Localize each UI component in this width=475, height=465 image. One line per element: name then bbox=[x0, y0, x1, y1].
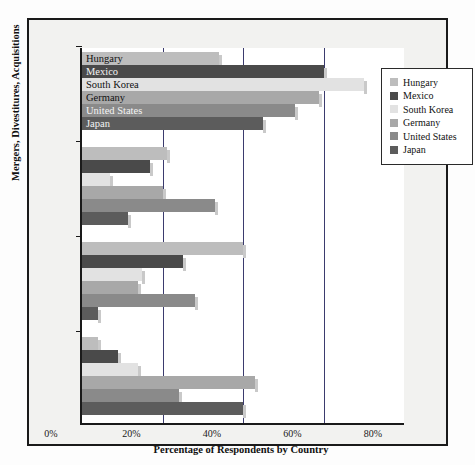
legend-item-mexico[interactable]: Mexico bbox=[390, 90, 466, 102]
bar-shadow bbox=[364, 81, 367, 94]
bar-united-states-g4[interactable] bbox=[82, 389, 179, 402]
legend-label: United States bbox=[403, 131, 457, 142]
bar-south-korea-g2[interactable] bbox=[82, 173, 110, 186]
bar-shadow bbox=[295, 107, 298, 120]
bar-shadow bbox=[167, 150, 170, 163]
legend-item-hungary[interactable]: Hungary bbox=[390, 76, 466, 88]
bar-label-japan: Japan bbox=[86, 117, 110, 130]
legend-label: Hungary bbox=[403, 77, 438, 88]
bar-shadow bbox=[150, 163, 153, 176]
legend-label: South Korea bbox=[403, 104, 453, 115]
legend-label: Germany bbox=[403, 117, 440, 128]
legend-swatch-icon bbox=[390, 146, 398, 154]
bar-shadow bbox=[243, 405, 246, 418]
bar-japan-g2[interactable] bbox=[82, 212, 128, 225]
bar-mexico-g2[interactable] bbox=[82, 160, 150, 173]
legend-swatch-icon bbox=[390, 78, 398, 86]
bar-japan-g4[interactable] bbox=[82, 402, 243, 415]
legend-swatch-icon bbox=[390, 105, 398, 113]
y-tick-1 bbox=[76, 46, 82, 47]
y-tick-3 bbox=[76, 236, 82, 237]
bar-germany-g3[interactable] bbox=[82, 281, 138, 294]
bar-hungary-g4[interactable] bbox=[82, 337, 98, 350]
bar-shadow bbox=[255, 379, 258, 392]
bar-group-1: HungaryMexicoSouth KoreaGermanyUnited St… bbox=[82, 52, 404, 130]
bar-shadow bbox=[128, 215, 131, 228]
bar-mexico-g3[interactable] bbox=[82, 255, 183, 268]
bar-hungary-g2[interactable] bbox=[82, 147, 167, 160]
bar-japan-g3[interactable] bbox=[82, 307, 98, 320]
bar-south-korea-g4[interactable] bbox=[82, 363, 138, 376]
x-tick-label-80%: 80% bbox=[364, 428, 382, 439]
bar-label-hungary: Hungary bbox=[86, 52, 123, 65]
legend-label: Japan bbox=[403, 144, 426, 155]
legend-item-germany[interactable]: Germany bbox=[390, 117, 466, 129]
y-tick-2 bbox=[76, 141, 82, 142]
bar-germany-g2[interactable] bbox=[82, 186, 163, 199]
bar-label-south-korea: South Korea bbox=[86, 78, 139, 91]
bar-shadow bbox=[243, 245, 246, 258]
bar-group-2 bbox=[82, 147, 404, 225]
chart-legend: HungaryMexicoSouth KoreaGermanyUnited St… bbox=[381, 68, 473, 165]
legend-item-japan[interactable]: Japan bbox=[390, 144, 466, 156]
bar-united-states-g3[interactable] bbox=[82, 294, 195, 307]
bar-shadow bbox=[215, 202, 218, 215]
bar-shadow bbox=[195, 297, 198, 310]
bar-united-states-g2[interactable] bbox=[82, 199, 215, 212]
bar-shadow bbox=[319, 94, 322, 107]
legend-swatch-icon bbox=[390, 119, 398, 127]
legend-label: Mexico bbox=[403, 90, 434, 101]
legend-item-united-states[interactable]: United States bbox=[390, 130, 466, 142]
chart-frame: Mergers, Divestitures, Acquisitions Hung… bbox=[27, 18, 448, 446]
bar-mexico-g4[interactable] bbox=[82, 350, 118, 363]
bar-group-4 bbox=[82, 337, 404, 415]
x-tick-label-0%: 0% bbox=[44, 428, 57, 439]
plot-area: HungaryMexicoSouth KoreaGermanyUnited St… bbox=[80, 48, 404, 425]
legend-item-south-korea[interactable]: South Korea bbox=[390, 103, 466, 115]
bar-shadow bbox=[263, 120, 266, 133]
x-axis-title: Percentage of Respondents by Country bbox=[80, 444, 402, 455]
bar-label-mexico: Mexico bbox=[86, 65, 118, 78]
bar-label-united-states: United States bbox=[86, 104, 142, 117]
x-tick-label-60%: 60% bbox=[283, 428, 301, 439]
bar-label-germany: Germany bbox=[86, 91, 125, 104]
y-axis-title: Mergers, Divestitures, Acquisitions bbox=[10, 24, 21, 181]
bar-shadow bbox=[98, 310, 101, 323]
x-tick-label-40%: 40% bbox=[203, 428, 221, 439]
bar-mexico-g1[interactable] bbox=[82, 65, 324, 78]
x-tick-label-20%: 20% bbox=[122, 428, 140, 439]
bar-group-3 bbox=[82, 242, 404, 320]
bar-germany-g4[interactable] bbox=[82, 376, 255, 389]
bar-shadow bbox=[142, 271, 145, 284]
bar-south-korea-g3[interactable] bbox=[82, 268, 142, 281]
y-tick-4 bbox=[76, 331, 82, 332]
bar-shadow bbox=[183, 258, 186, 271]
bar-hungary-g3[interactable] bbox=[82, 242, 243, 255]
chart-root: Mergers, Divestitures, Acquisitions Hung… bbox=[0, 0, 475, 465]
legend-swatch-icon bbox=[390, 132, 398, 140]
legend-swatch-icon bbox=[390, 92, 398, 100]
